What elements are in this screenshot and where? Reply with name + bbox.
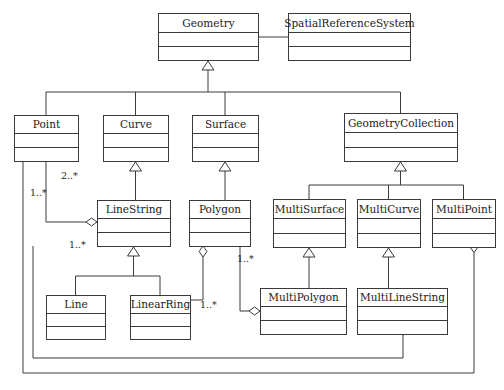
class-box-geometry[interactable]: Geometry (159, 14, 259, 61)
classes-layer: GeometrySpatialReferenceSystemPointCurve… (15, 14, 496, 340)
class-box-geometrycoll[interactable]: GeometryCollection (345, 114, 458, 162)
generalization-arrow-geometrycoll (395, 162, 407, 171)
class-name-geometry: Geometry (182, 17, 234, 29)
class-box-curve[interactable]: Curve (104, 116, 169, 162)
class-box-surface[interactable]: Surface (193, 116, 259, 162)
class-name-multilinestring: MultiLineString (360, 291, 445, 303)
class-name-multipoint: MultiPoint (436, 203, 493, 215)
class-box-point[interactable]: Point (15, 116, 79, 162)
class-name-multicurve: MultiCurve (359, 203, 419, 215)
class-name-linestring: LineString (106, 203, 163, 215)
multiplicity-label-mult-1star-polygon-multipoly: 1..* (237, 253, 254, 264)
class-name-polygon: Polygon (199, 203, 241, 215)
aggregation-link-multipoint-point (23, 161, 474, 373)
generalization-arrow-multisurface (303, 248, 315, 257)
class-box-multilinestring[interactable]: MultiLineString (358, 289, 448, 335)
class-box-srs[interactable]: SpatialReferenceSystem (284, 14, 415, 61)
uml-class-diagram: GeometrySpatialReferenceSystemPointCurve… (0, 0, 504, 390)
aggregation-link-polygon-linearring (190, 257, 203, 300)
class-box-multipoint[interactable]: MultiPoint (433, 200, 496, 248)
class-name-multipolygon: MultiPolygon (268, 291, 339, 303)
class-name-curve: Curve (120, 118, 152, 130)
generalization-arrow-curve (130, 162, 142, 171)
multiplicity-label-mult-2star-point-linestring: 2..* (61, 170, 78, 181)
multiplicity-label-mult-1star-linearring-poly: 1..* (200, 299, 217, 310)
class-name-point: Point (33, 118, 61, 130)
class-box-multicurve[interactable]: MultiCurve (358, 200, 421, 248)
generalization-arrow-geometry (202, 61, 214, 70)
generalization-arrow-surface (219, 162, 231, 171)
aggregation-diamond-linestring-point (86, 218, 97, 226)
multiplicity-label-mult-1star-point-multipoint: 1..* (30, 187, 47, 198)
class-name-srs: SpatialReferenceSystem (284, 17, 415, 29)
class-name-linearring: LinearRing (131, 298, 191, 310)
aggregation-diamond-polygon-linearring (199, 246, 207, 257)
aggregation-diamond-multipolygon-polygon (249, 307, 260, 315)
diagram-canvas: GeometrySpatialReferenceSystemPointCurve… (0, 0, 504, 390)
class-box-multisurface[interactable]: MultiSurface (274, 200, 346, 248)
class-name-line: Line (64, 298, 87, 310)
generalization-arrow-multicurve (383, 248, 395, 257)
class-box-line[interactable]: Line (47, 296, 106, 340)
class-box-polygon[interactable]: Polygon (190, 201, 251, 247)
class-name-geometrycoll: GeometryCollection (348, 117, 454, 129)
class-box-multipolygon[interactable]: MultiPolygon (261, 289, 347, 335)
multiplicity-label-mult-1star-linestring-mls: 1..* (69, 239, 86, 250)
generalization-arrow-linestring (128, 247, 140, 256)
class-box-linearring[interactable]: LinearRing (131, 296, 191, 340)
class-name-surface: Surface (205, 118, 246, 130)
class-box-linestring[interactable]: LineString (98, 201, 171, 247)
class-name-multisurface: MultiSurface (275, 203, 345, 215)
